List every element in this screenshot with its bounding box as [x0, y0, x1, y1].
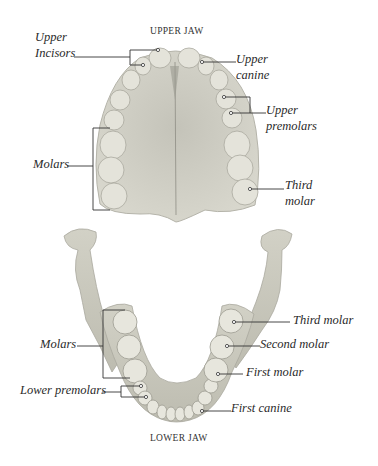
upper-jaw-image: [96, 48, 259, 222]
label-lower-second-molar: Second molar: [260, 336, 329, 352]
upper-jaw-title: UPPER JAW: [150, 26, 203, 36]
label-upper-third-molar-line2: molar: [285, 193, 315, 209]
label-lower-premolars: Lower premolars: [20, 382, 106, 398]
teeth-diagram: UPPER JAW LOWER JAW Upper Incisors Upper…: [0, 0, 378, 466]
label-upper-incisors-line2: Incisors: [35, 45, 75, 61]
label-lower-first-canine: First canine: [231, 400, 292, 416]
label-upper-premolars-line2: premolars: [266, 118, 317, 134]
label-upper-canine-line1: Upper: [236, 51, 268, 67]
label-lower-first-molar: First molar: [246, 364, 303, 380]
label-upper-third-molar-line1: Third: [285, 177, 312, 193]
lower-jaw-title: LOWER JAW: [150, 433, 208, 443]
label-upper-molars: Molars: [33, 156, 69, 172]
label-lower-third-molar: Third molar: [293, 312, 353, 328]
label-upper-premolars-line1: Upper: [266, 102, 298, 118]
label-upper-canine-line2: canine: [236, 67, 269, 83]
label-lower-molars: Molars: [40, 336, 76, 352]
label-upper-incisors-line1: Upper: [35, 29, 67, 45]
